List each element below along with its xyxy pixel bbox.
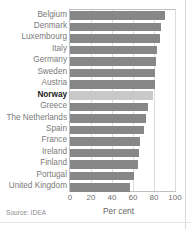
x-tick-0: 0 [68, 194, 72, 202]
bar-germany [70, 57, 156, 66]
bar-row [70, 90, 175, 101]
category-label-ireland: Ireland [0, 148, 67, 156]
bar-rows [70, 10, 175, 191]
bar-row [70, 56, 175, 67]
category-label-austria: Austria [0, 79, 67, 87]
x-tick-100: 100 [168, 194, 181, 202]
category-label-luxembourg: Luxembourg [0, 33, 67, 41]
bar-row [70, 102, 175, 113]
category-label-denmark: Denmark [0, 22, 67, 30]
bar-finland [70, 160, 138, 169]
bar-chart: BelgiumDenmarkLuxembourgItalyGermanySwed… [0, 0, 191, 229]
bar-row [70, 44, 175, 55]
bar-row [70, 33, 175, 44]
bar-the-netherlands [70, 114, 146, 123]
bar-italy [70, 46, 157, 55]
bar-portugal [70, 172, 134, 181]
gridline [175, 10, 176, 191]
category-label-finland: Finland [0, 159, 67, 167]
category-label-portugal: Portugal [0, 171, 67, 179]
page-rule-right [185, 0, 186, 229]
plot-area [69, 9, 176, 192]
x-tick-80: 80 [150, 194, 159, 202]
bar-luxembourg [70, 34, 160, 43]
bar-row [70, 136, 175, 147]
bar-row [70, 170, 175, 181]
bar-greece [70, 103, 148, 112]
category-label-belgium: Belgium [0, 11, 67, 19]
category-label-spain: Spain [0, 125, 67, 133]
bar-france [70, 137, 140, 146]
source-note: Source: IDEA [6, 209, 46, 216]
bar-denmark [70, 23, 161, 32]
category-label-france: France [0, 136, 67, 144]
bar-spain [70, 126, 144, 135]
x-tick-60: 60 [129, 194, 138, 202]
x-tick-40: 40 [108, 194, 117, 202]
bar-row [70, 79, 175, 90]
bar-belgium [70, 11, 165, 20]
category-label-united-kingdom: United Kingdom [0, 182, 67, 190]
bar-row [70, 21, 175, 32]
category-label-italy: Italy [0, 45, 67, 53]
bar-row [70, 113, 175, 124]
bar-row [70, 67, 175, 78]
category-label-greece: Greece [0, 102, 67, 110]
bar-row [70, 124, 175, 135]
bar-sweden [70, 69, 155, 78]
bar-united-kingdom [70, 183, 130, 192]
figure-page: BelgiumDenmarkLuxembourgItalyGermanySwed… [0, 0, 191, 229]
bar-row [70, 182, 175, 193]
bar-row [70, 10, 175, 21]
category-label-germany: Germany [0, 56, 67, 64]
category-label-sweden: Sweden [0, 68, 67, 76]
bar-ireland [70, 149, 139, 158]
bar-austria [70, 80, 155, 89]
x-tick-20: 20 [87, 194, 96, 202]
category-label-the-netherlands: The Netherlands [0, 114, 67, 122]
category-label-norway: Norway [0, 91, 67, 99]
bar-norway [70, 91, 153, 100]
bar-row [70, 159, 175, 170]
bar-row [70, 147, 175, 158]
page-rule-bottom [0, 222, 191, 223]
